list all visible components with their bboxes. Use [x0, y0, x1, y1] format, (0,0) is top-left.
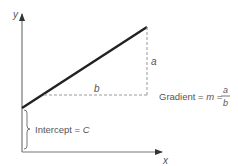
linear-function-line [22, 27, 147, 108]
gradient-equals: = [214, 91, 223, 102]
run-label: b [94, 83, 100, 94]
gradient-symbol: m [206, 91, 214, 102]
y-axis-label: y [12, 9, 19, 20]
intercept-label: Intercept = C [35, 124, 90, 135]
fraction-numerator: a [223, 85, 228, 95]
intercept-prefix: Intercept = [35, 124, 83, 135]
gradient-formula: Gradient = m = [159, 91, 223, 102]
intercept-symbol: C [83, 124, 90, 135]
x-axis-label: x [162, 155, 169, 166]
rise-label: a [151, 56, 157, 67]
gradient-prefix: Gradient = [159, 91, 206, 102]
fraction-denominator: b [223, 98, 228, 108]
gradient-intercept-diagram: y x a b Gradient = m = a b Intercept = C [0, 0, 238, 166]
intercept-brace [24, 110, 30, 149]
